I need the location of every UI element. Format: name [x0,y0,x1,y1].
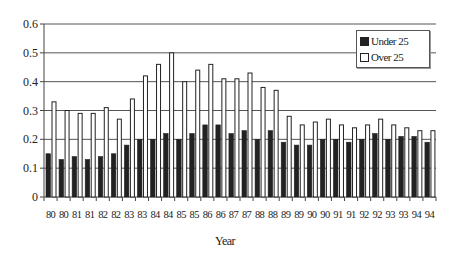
legend-swatch-empty-icon [360,53,369,62]
x-tick-label: 88 [253,209,267,220]
x-tick-label: 90 [305,209,319,220]
y-tick-label: 0.1 [0,162,38,174]
x-tick-label: 86 [200,209,214,220]
x-tick-label: 89 [292,209,306,220]
legend-item-under-25: Under 25 [360,34,408,48]
bar-under-25 [216,125,221,197]
bar-over-25 [339,125,343,197]
y-tick-label: 0 [0,191,38,203]
x-tick-label: 88 [266,209,280,220]
bar-under-25 [98,157,103,197]
bar-over-25 [326,119,330,197]
bar-over-25 [431,131,435,197]
bar-under-25 [255,139,259,197]
x-tick-label: 85 [174,209,188,220]
bar-over-25 [274,90,278,197]
x-tick-label: 93 [383,209,397,220]
bar-over-25 [117,119,121,197]
x-tick-label: 94 [422,209,436,220]
bar-under-25 [347,142,352,197]
bar-over-25 [379,119,383,197]
legend-item-over-25: Over 25 [360,50,403,64]
x-tick-label: 81 [70,209,84,220]
y-tick-label: 0.5 [0,47,38,59]
bar-under-25 [151,139,156,197]
bar-over-25 [287,116,291,197]
bar-over-25 [52,102,56,197]
bar-over-25 [405,128,409,197]
legend-label: Over 25 [371,51,403,63]
bar-under-25 [242,131,247,197]
bar-under-25 [124,145,128,197]
bar-over-25 [353,128,357,197]
bar-over-25 [300,125,304,197]
bar-under-25 [268,131,273,197]
bar-over-25 [235,79,239,197]
y-tick-label: 0.2 [0,133,38,145]
x-tick-label: 84 [148,209,162,220]
bar-under-25 [177,139,182,197]
bar-over-25 [65,111,69,198]
bar-over-25 [91,113,95,197]
bar-under-25 [320,139,325,197]
bar-over-25 [392,125,396,197]
bar-under-25 [333,139,338,197]
bar-over-25 [209,64,213,197]
bar-under-25 [59,160,64,197]
bar-under-25 [190,134,195,197]
x-tick-label: 92 [370,209,384,220]
bar-under-25 [137,139,142,197]
y-tick-label: 0.4 [0,76,38,88]
x-tick-label: 92 [357,209,371,220]
x-tick-label: 80 [44,209,58,220]
bar-under-25 [294,145,299,197]
bar-under-25 [360,139,365,197]
x-tick-label: 90 [318,209,332,220]
bar-over-25 [261,87,265,197]
bar-under-25 [399,136,404,197]
bar-under-25 [425,142,430,197]
x-tick-label: 84 [161,209,175,220]
x-tick-label: 83 [135,209,149,220]
legend: Under 25 Over 25 [356,30,430,68]
bar-under-25 [203,125,208,197]
bar-over-25 [157,64,161,197]
x-tick-label: 89 [279,209,293,220]
bar-chart: 00.10.20.30.40.50.6 80808181828283838484… [0,0,450,259]
bar-under-25 [111,154,116,197]
bar-over-25 [248,73,252,197]
bar-over-25 [104,108,108,197]
x-tick-label: 82 [96,209,110,220]
x-tick-label: 83 [122,209,136,220]
x-tick-label: 86 [213,209,227,220]
bar-under-25 [164,134,169,197]
bar-over-25 [196,70,200,197]
bar-over-25 [78,113,82,197]
x-axis-label: Year [0,234,450,249]
x-tick-label: 93 [396,209,410,220]
bar-under-25 [386,139,391,197]
bar-under-25 [85,160,90,197]
bar-over-25 [313,122,317,197]
bar-over-25 [130,99,134,197]
bar-under-25 [281,142,286,197]
bar-over-25 [143,76,147,197]
bar-under-25 [373,134,378,197]
bar-over-25 [222,79,226,197]
x-tick-label: 91 [344,209,358,220]
x-tick-label: 80 [57,209,71,220]
x-tick-label: 87 [240,209,254,220]
bar-under-25 [46,154,51,197]
x-tick-label: 94 [409,209,423,220]
bar-under-25 [307,145,312,197]
y-tick-label: 0.3 [0,105,38,117]
x-tick-label: 91 [331,209,345,220]
legend-swatch-filled-icon [360,37,369,46]
x-tick-label: 87 [226,209,240,220]
bar-over-25 [366,125,370,197]
legend-label: Under 25 [371,35,408,47]
bar-over-25 [418,131,422,197]
bar-under-25 [72,157,77,197]
bar-over-25 [183,82,187,197]
y-tick-label: 0.6 [0,18,38,30]
